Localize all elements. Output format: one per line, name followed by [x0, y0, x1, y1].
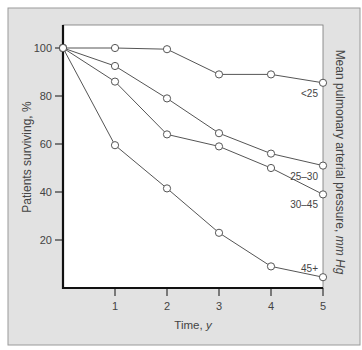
data-point [111, 62, 118, 69]
data-point [319, 274, 326, 281]
data-point [59, 44, 66, 51]
data-point [163, 185, 170, 192]
x-tick-label: 5 [320, 300, 326, 312]
data-point [111, 78, 118, 85]
x-tick-label: 2 [164, 300, 170, 312]
data-point [111, 44, 118, 51]
series-label: 45+ [301, 263, 318, 274]
data-point [319, 162, 326, 169]
data-point [215, 229, 222, 236]
y-tick-label: 60 [40, 138, 52, 150]
series-label: <25 [301, 88, 318, 99]
data-point [163, 131, 170, 138]
data-point [163, 46, 170, 53]
y-tick-label: 20 [40, 234, 52, 246]
y-axis-label: Patients surviving, % [20, 101, 34, 213]
data-point [215, 130, 222, 137]
data-point [267, 71, 274, 78]
data-point [319, 79, 326, 86]
data-point [267, 263, 274, 270]
y-tick-label: 40 [40, 186, 52, 198]
data-point [215, 71, 222, 78]
data-point [215, 143, 222, 150]
y-tick-label: 100 [34, 42, 52, 54]
data-point [267, 150, 274, 157]
x-tick-label: 1 [112, 300, 118, 312]
series-label: 30–45 [290, 199, 318, 210]
data-point [319, 191, 326, 198]
right-axis-label: Mean pulmonary arterial pressure, mm Hg [333, 50, 347, 275]
data-point [267, 164, 274, 171]
x-tick-label: 4 [268, 300, 274, 312]
data-point [163, 95, 170, 102]
x-tick-label: 3 [216, 300, 222, 312]
y-tick-label: 80 [40, 90, 52, 102]
survival-chart: 2040608010012345 <2525–3030–4545+ Patien… [0, 0, 362, 350]
data-point [111, 142, 118, 149]
x-axis-label: Time, y [174, 319, 213, 331]
